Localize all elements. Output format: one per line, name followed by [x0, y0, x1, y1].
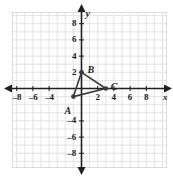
graph-canvas — [0, 0, 173, 177]
y-tick-label: –6 — [67, 133, 76, 142]
vertex-point-c — [104, 86, 109, 91]
x-tick-label: 2 — [95, 93, 100, 102]
y-tick-label: –8 — [67, 149, 76, 158]
vertex-label-b: B — [88, 65, 95, 75]
y-axis-name: y — [86, 9, 90, 19]
x-tick-label: –4 — [45, 93, 54, 102]
y-tick-label: 4 — [72, 52, 77, 61]
x-tick-label: 6 — [128, 93, 133, 102]
vertex-point-a — [71, 94, 76, 99]
y-axis-arrow-up — [78, 4, 86, 12]
y-axis-arrow-down — [78, 167, 86, 175]
vertex-label-c: C — [111, 82, 118, 92]
x-tick-label: 4 — [112, 93, 117, 102]
y-tick-label: 2 — [72, 68, 77, 77]
x-tick-label: –6 — [29, 93, 38, 102]
x-axis-arrow-left — [4, 85, 12, 93]
x-axis-name: x — [163, 93, 168, 102]
x-tick-label: 8 — [144, 93, 149, 102]
x-tick-label: –8 — [13, 93, 22, 102]
coordinate-plane-figure: –8–6–424688642–4–6–8xyABC — [0, 0, 173, 177]
vertex-label-a: A — [64, 106, 71, 116]
y-tick-label: –4 — [67, 116, 76, 125]
y-tick-label: 6 — [72, 35, 77, 44]
vertex-point-b — [79, 70, 84, 75]
grid-lines — [13, 13, 167, 168]
y-tick-label: 8 — [72, 19, 77, 28]
